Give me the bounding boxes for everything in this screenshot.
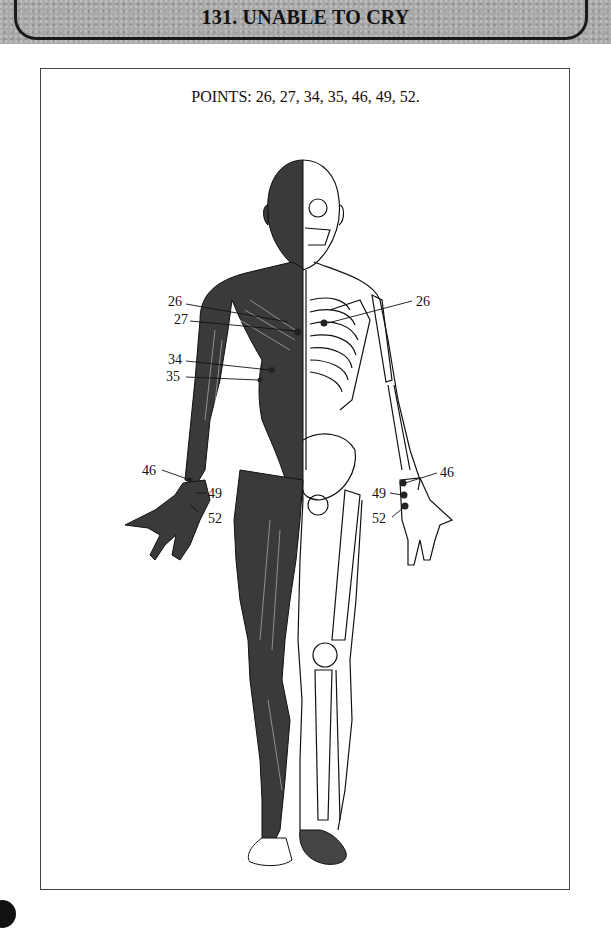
label-34-left: 34: [168, 352, 182, 367]
label-49-right: 49: [372, 486, 386, 501]
label-46-right: 46: [440, 465, 454, 480]
right-foot: [300, 830, 347, 864]
label-27-left: 27: [174, 312, 188, 327]
left-foot: [248, 838, 292, 866]
label-52-left: 52: [208, 511, 222, 526]
label-46-left: 46: [142, 463, 156, 478]
label-26-left: 26: [168, 294, 182, 309]
label-52-right: 52: [372, 511, 386, 526]
label-49-left: 49: [208, 486, 222, 501]
label-35-left: 35: [166, 369, 180, 384]
label-26-right: 26: [416, 294, 430, 309]
